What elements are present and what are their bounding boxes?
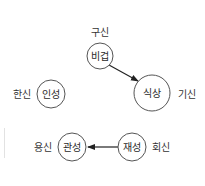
role-label: 회신: [152, 142, 170, 153]
node-label: 관성: [63, 142, 81, 153]
role-label: 구신: [91, 27, 109, 38]
node-label: 인성: [42, 89, 60, 100]
node-jaeseong: 재성 회신: [118, 133, 170, 161]
edge-artifact-line: [4, 128, 5, 158]
role-label: 기신: [178, 89, 196, 100]
node-siksang: 식상 기신: [134, 75, 196, 111]
node-label: 재성: [123, 142, 141, 153]
node-label: 식상: [143, 88, 161, 99]
role-label: 용신: [34, 142, 52, 153]
arrow-bigeop-to-siksang: [109, 65, 138, 81]
role-label: 한신: [13, 89, 31, 100]
five-elements-diagram: 비겁 구신 식상 기신 인성 한신 관성 용신 재성 회신: [0, 0, 205, 186]
node-bigeop: 비겁 구신: [87, 27, 113, 70]
node-label: 비겁: [91, 51, 109, 62]
node-inseong: 인성 한신: [13, 80, 65, 108]
node-gwanseong: 관성 용신: [34, 133, 86, 161]
